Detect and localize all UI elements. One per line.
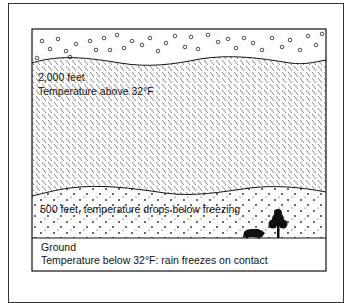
droplet [206, 33, 210, 37]
ground-temperature-label: Temperature below 32°F: rain freezes on … [41, 254, 268, 266]
droplet [260, 48, 264, 52]
droplet [115, 33, 119, 37]
droplet [148, 36, 152, 40]
droplet [270, 36, 274, 40]
droplet [288, 38, 292, 42]
droplet [280, 45, 284, 49]
droplet [35, 56, 39, 60]
droplet [48, 47, 52, 51]
droplet [102, 36, 106, 40]
droplet [40, 39, 44, 43]
droplet [242, 36, 246, 40]
droplet [164, 41, 168, 45]
droplet [74, 42, 78, 46]
droplet [140, 43, 144, 47]
droplet [108, 48, 112, 52]
cold-layer-label: 500 feet, temperature drops below freezi… [40, 203, 240, 215]
ground-label: Ground [41, 241, 76, 253]
droplet [306, 34, 310, 38]
droplet [156, 49, 160, 53]
droplet [173, 34, 177, 38]
droplet [183, 45, 187, 49]
droplet [56, 37, 60, 41]
droplet [314, 43, 318, 47]
droplet [122, 46, 126, 50]
droplet [234, 46, 238, 50]
droplet [320, 32, 324, 36]
droplet [298, 48, 302, 52]
droplet [216, 40, 220, 44]
droplet [64, 49, 68, 53]
droplet [88, 39, 92, 43]
droplet [130, 39, 134, 43]
droplet [251, 41, 255, 45]
warm-layer-altitude-label: 2,000 feet [38, 71, 85, 83]
droplet [94, 48, 98, 52]
warm-layer-temperature-label: Temperature above 32°F [38, 85, 154, 97]
droplet [226, 37, 230, 41]
droplet [189, 35, 193, 39]
droplet [196, 47, 200, 51]
cloud-droplets [35, 32, 324, 60]
